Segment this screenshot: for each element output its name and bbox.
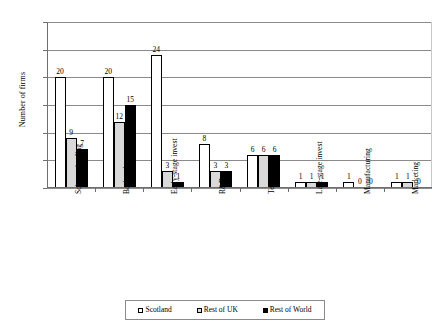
- x-axis-category-label: Marketing: [412, 162, 420, 194]
- bar-value-label: 3: [165, 162, 169, 170]
- y-tick-mark: [43, 105, 47, 106]
- x-axis-category-label: Testing: [268, 171, 276, 194]
- bar[interactable]: 6: [247, 155, 258, 188]
- x-axis-separator-tick: [95, 188, 96, 192]
- bar[interactable]: 24: [151, 55, 162, 188]
- x-axis-category-label: Basic science: [123, 152, 131, 194]
- x-axis-category-label: Early-stage invest: [171, 138, 179, 194]
- bar-value-label: 3: [225, 162, 229, 170]
- y-tick-mark: [43, 160, 47, 161]
- bar-value-label: 6: [262, 146, 266, 154]
- bar-group-bars: 111: [288, 22, 336, 188]
- chart-legend: ScotlandRest of UKRest of World: [125, 300, 325, 320]
- plot-area: 20972012152431833666111100110: [47, 22, 432, 188]
- legend-swatch-icon: [263, 308, 268, 313]
- bar-group: 2097: [47, 22, 95, 188]
- x-axis-separator-tick: [384, 188, 385, 192]
- bar-value-label: 1: [310, 173, 314, 181]
- bar-value-label: 12: [115, 113, 123, 121]
- y-tick-mark: [43, 188, 47, 189]
- bar-value-label: 0: [358, 178, 362, 186]
- legend-item-label: Scotland: [145, 306, 171, 314]
- x-axis-category-label: Science funding: [75, 144, 83, 194]
- bar-group: 833: [191, 22, 239, 188]
- bar-group: 100: [336, 22, 384, 188]
- x-axis-separator-tick: [288, 188, 289, 192]
- legend-swatch-icon: [197, 308, 202, 313]
- x-axis-category-label: Manufacturing: [364, 148, 372, 194]
- y-axis-title: Number of firms: [18, 45, 27, 155]
- bar-value-label: 6: [273, 146, 277, 154]
- x-axis-separator-tick: [191, 188, 192, 192]
- x-axis-category-label: Late-stage invest: [316, 141, 324, 194]
- bar-value-label: 3: [214, 162, 218, 170]
- legend-item[interactable]: Rest of UK: [197, 306, 238, 314]
- bar-group-bars: 201215: [95, 22, 143, 188]
- bar-group: 111: [288, 22, 336, 188]
- bar[interactable]: 20: [55, 77, 66, 188]
- legend-item[interactable]: Rest of World: [263, 306, 312, 314]
- x-axis-separator-tick: [143, 188, 144, 192]
- bar-value-label: 20: [56, 68, 64, 76]
- bar-value-label: 1: [299, 173, 303, 181]
- bar-group-bars: 666: [240, 22, 288, 188]
- legend-item-label: Rest of UK: [204, 306, 238, 314]
- bar[interactable]: 20: [103, 77, 114, 188]
- bar-group: 666: [240, 22, 288, 188]
- bar-group-bars: 2097: [47, 22, 95, 188]
- bar-chart: Number of firms 051015202530 20972012152…: [0, 0, 448, 334]
- bar-group-bars: 100: [336, 22, 384, 188]
- bar-group: 2431: [143, 22, 191, 188]
- y-tick-mark: [43, 50, 47, 51]
- bar-group-bars: 110: [384, 22, 432, 188]
- legend-item-label: Rest of World: [270, 306, 312, 314]
- x-axis-category-label: R&D: [219, 177, 227, 194]
- legend-item[interactable]: Scotland: [138, 306, 171, 314]
- bar-value-label: 24: [153, 46, 161, 54]
- bar-value-label: 1: [347, 173, 351, 181]
- bar[interactable]: 8: [199, 144, 210, 188]
- bar-value-label: 9: [69, 129, 73, 137]
- y-tick-mark: [43, 133, 47, 134]
- y-tick-mark: [43, 22, 47, 23]
- x-axis-separator-tick: [240, 188, 241, 192]
- bar-group: 110: [384, 22, 432, 188]
- bar-value-label: 20: [104, 68, 112, 76]
- y-tick-mark: [43, 77, 47, 78]
- bar-value-label: 1: [395, 173, 399, 181]
- bar-value-label: 15: [126, 96, 134, 104]
- bar-value-label: 6: [251, 146, 255, 154]
- bar-value-label: 1: [406, 173, 410, 181]
- bar-group-bars: 2431: [143, 22, 191, 188]
- bar-group: 201215: [95, 22, 143, 188]
- bar-group-bars: 833: [191, 22, 239, 188]
- bar-value-label: 8: [203, 135, 207, 143]
- x-axis-separator-tick: [336, 188, 337, 192]
- legend-swatch-icon: [138, 308, 143, 313]
